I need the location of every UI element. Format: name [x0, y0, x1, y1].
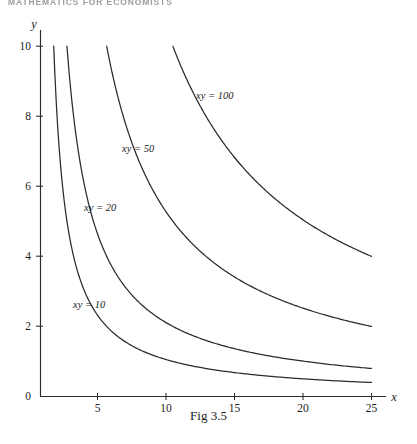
figure-area: 10 8 6 4 2 0 5 10 15 20 25 y x xy = 100 …	[0, 0, 417, 444]
y-tick-label-6: 6	[25, 180, 31, 192]
y-tick-label-2: 2	[25, 320, 31, 332]
hyperbola-plot: 10 8 6 4 2 0 5 10 15 20 25 y x xy = 100 …	[0, 0, 417, 444]
figure-caption: Fig 3.5	[0, 408, 417, 424]
curve-label-xy-50: xy = 50	[121, 143, 155, 154]
curve-label-xy-20: xy = 20	[83, 202, 117, 213]
y-tick-label-10: 10	[20, 40, 32, 52]
curve-label-xy-10: xy = 10	[72, 299, 106, 310]
curve-xy-100	[173, 46, 372, 256]
curve-label-xy-100: xy = 100	[195, 90, 234, 101]
y-tick-label-8: 8	[25, 110, 31, 122]
x-axis-label: x	[390, 390, 397, 404]
y-tick-label-0: 0	[25, 390, 31, 402]
curve-xy-50	[107, 46, 372, 326]
figure-page: MATHEMATICS FOR ECONOMISTS 10 8 6 4 2 0	[0, 0, 417, 444]
y-tick-label-4: 4	[25, 250, 31, 262]
y-axis-label: y	[29, 17, 37, 31]
